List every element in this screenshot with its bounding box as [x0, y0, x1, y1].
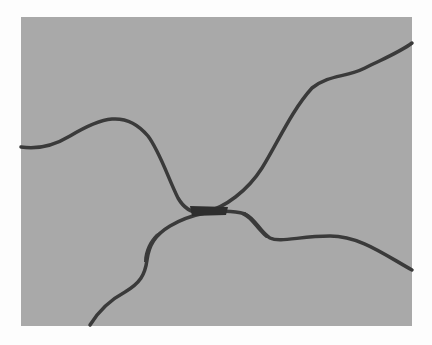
junction-blob — [190, 206, 228, 216]
figure-svg — [0, 0, 432, 345]
gray-panel — [21, 17, 412, 326]
figure-canvas — [0, 0, 432, 345]
